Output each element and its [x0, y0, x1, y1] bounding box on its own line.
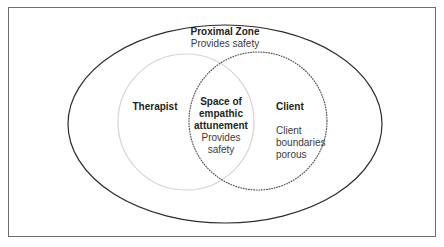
therapist-label: Therapist [120, 101, 190, 113]
client-subtitle-line3: porous [276, 149, 325, 161]
client-subtitle-line1: Client [276, 125, 325, 137]
overlap-label: Space of empathic attunement Provides sa… [190, 96, 252, 156]
overlap-subtitle-line1: Provides [190, 132, 252, 144]
therapist-title: Therapist [120, 101, 190, 113]
overlap-subtitle-line2: safety [190, 144, 252, 156]
overlap-title-line3: attunement [190, 120, 252, 132]
overlap-title-line1: Space of [190, 96, 252, 108]
overlap-title-line2: empathic [190, 108, 252, 120]
proximal-zone-subtitle: Provides safety [170, 38, 280, 50]
client-description: Client boundaries porous [276, 125, 325, 161]
client-title: Client [276, 101, 304, 113]
proximal-zone-title: Proximal Zone [170, 26, 280, 38]
proximal-zone-label: Proximal Zone Provides safety [170, 26, 280, 50]
client-subtitle-line2: boundaries [276, 137, 325, 149]
client-label: Client [276, 101, 304, 113]
